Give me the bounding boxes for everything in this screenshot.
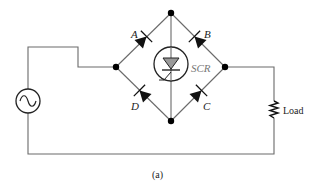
diode-b-label: B (204, 28, 211, 40)
load-label: Load (283, 105, 304, 116)
wire-source-to-left-node (28, 47, 116, 89)
wire-right-node-to-load (225, 67, 274, 101)
bridge-scr-circuit: A B C D SCR Load (a) (0, 0, 317, 191)
figure-caption: (a) (152, 169, 163, 181)
node-bottom (168, 118, 174, 124)
diode-c-label: C (203, 100, 211, 112)
ac-source-icon (16, 89, 40, 113)
diode-d-label: D (130, 100, 139, 112)
scr-icon (154, 47, 188, 81)
wire-source-to-load-bottom (28, 113, 274, 154)
diode-a-label: A (130, 28, 138, 40)
node-right (222, 64, 228, 70)
node-top (168, 10, 174, 16)
node-left (113, 64, 119, 70)
scr-label: SCR (191, 62, 211, 74)
wires (28, 13, 274, 154)
load-resistor-icon (270, 101, 278, 118)
